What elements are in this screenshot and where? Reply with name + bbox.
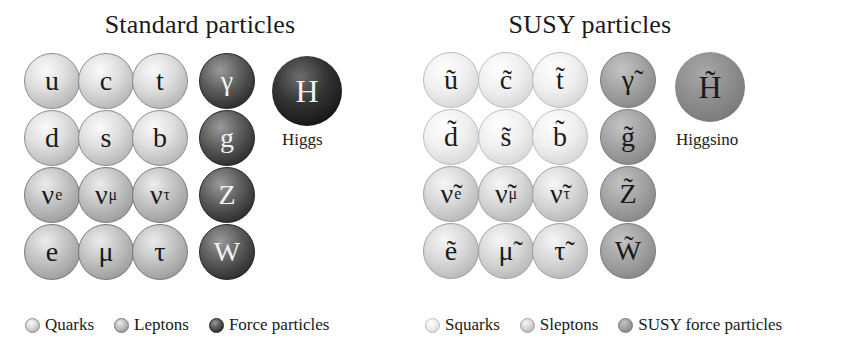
legend-label: Force particles [229,315,330,335]
particle-subscript: e [454,185,461,203]
particle-symbol: g [220,124,234,152]
standard-particle-lepton: μ [78,224,134,280]
standard-particle-force: W [199,224,255,280]
particle-symbol: b̃ [553,123,567,151]
susy-legend: SquarksSleptonsSUSY force particles [425,315,802,335]
standard-particle-force: Z [199,167,255,223]
particle-symbol: ũ [444,66,458,94]
particle-symbol: t̃ [556,66,564,94]
particle-symbol: c̃ [500,66,512,94]
particle-symbol: μ [98,238,113,266]
higgsino-particle: H̃ [675,52,745,122]
particle-symbol: W [214,238,240,266]
susy-particle-squark: b̃ [532,109,588,165]
particle-symbol: ν [150,181,163,209]
particle-symbol: W̃ [615,237,641,265]
particle-subscript: μ [109,186,118,204]
particle-symbol: ν̃ [550,180,563,208]
legend-item-lepton: Leptons [114,315,189,335]
susy-particle-squark: t̃ [532,52,588,108]
susy-particle-slepton: μ̃ [478,223,534,279]
legend-label: Squarks [445,315,500,335]
standard-particle-lepton: τ [132,224,188,280]
standard-particle-quark: b [132,110,188,166]
particle-symbol: s̃ [501,123,512,151]
lepton-sphere-icon [114,318,129,333]
susy-title: SUSY particles [450,10,730,40]
standard-particle-quark: t [132,53,188,109]
particle-symbol: ν̃ [441,180,454,208]
particle-symbol: τ [154,238,165,266]
standard-particle-quark: u [24,53,80,109]
particle-symbol: Z̃ [619,180,636,208]
particle-symbol: γ̃ [622,66,634,94]
particle-symbol: d̃ [444,123,458,151]
legend-item-sforce: SUSY force particles [618,315,782,335]
standard-particle-quark: d [24,110,80,166]
particle-subscript: e [55,186,62,204]
particle-symbol: u [45,67,59,95]
legend-item-force: Force particles [209,315,330,335]
particle-symbol: γ [221,67,233,95]
quark-sphere-icon [25,318,40,333]
susy-particle-sforce: Z̃ [600,166,656,222]
susy-particle-sforce: W̃ [600,223,656,279]
particle-subscript: μ [509,185,518,203]
higgsino-symbol: H̃ [698,71,721,103]
susy-particle-squark: c̃ [478,52,534,108]
legend-label: Sleptons [540,315,599,335]
higgs-label: Higgs [282,130,323,150]
susy-particle-slepton: τ̃ [532,223,588,279]
standard-particle-force: g [199,110,255,166]
particle-symbol: μ̃ [498,237,513,265]
legend-item-slepton: Sleptons [520,315,599,335]
particle-symbol: ν̃ [495,180,508,208]
legend-label: Quarks [45,315,94,335]
susy-particle-squark: ũ [423,52,479,108]
higgsino-label: Higgsino [676,130,738,150]
particle-symbol: τ̃ [554,237,565,265]
particle-symbol: t [156,67,164,95]
standard-particle-lepton: ντ [132,167,188,223]
susy-particle-squark: d̃ [423,109,479,165]
particle-symbol: b [153,124,167,152]
particle-symbol: ν [95,181,108,209]
standard-legend: QuarksLeptonsForce particles [25,315,349,335]
standard-particle-force: γ [199,53,255,109]
susy-particle-slepton: ν̃e [423,166,479,222]
susy-particle-squark: s̃ [478,109,534,165]
standard-particle-lepton: e [24,224,80,280]
particle-symbol: e [46,238,58,266]
standard-particle-quark: c [78,53,134,109]
standard-title: Standard particles [60,10,340,40]
standard-particle-lepton: νe [24,167,80,223]
particle-symbol: c [100,67,112,95]
susy-particle-sforce: g̃ [600,109,656,165]
susy-particle-slepton: ν̃μ [478,166,534,222]
susy-particle-slepton: ẽ [423,223,479,279]
particle-symbol: d [45,124,59,152]
particle-subscript: τ [564,185,570,203]
particle-symbol: g̃ [621,123,635,151]
sforce-sphere-icon [618,318,633,333]
legend-item-squark: Squarks [425,315,500,335]
legend-item-quark: Quarks [25,315,94,335]
standard-particle-lepton: νμ [78,167,134,223]
squark-sphere-icon [425,318,440,333]
particle-symbol: s [101,124,112,152]
higgs-symbol: H [295,75,318,107]
slepton-sphere-icon [520,318,535,333]
legend-label: SUSY force particles [638,315,782,335]
standard-particle-quark: s [78,110,134,166]
particle-symbol: Z [218,181,235,209]
legend-label: Leptons [134,315,189,335]
particle-symbol: ν [42,181,55,209]
higgs-particle: H [272,56,342,126]
particle-subscript: τ [164,186,170,204]
force-sphere-icon [209,318,224,333]
susy-particle-sforce: γ̃ [600,52,656,108]
susy-particle-slepton: ν̃τ [532,166,588,222]
particle-symbol: ẽ [445,237,457,265]
